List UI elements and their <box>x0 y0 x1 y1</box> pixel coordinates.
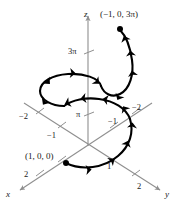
curve-start-dot <box>63 160 69 166</box>
y-tick-label-neg2: −2 <box>132 103 141 112</box>
x-tick-label-neg1: −1 <box>47 131 56 140</box>
z-axis-label: z <box>84 10 88 19</box>
x-axis <box>20 103 152 190</box>
figure-3d-helix: x y z 2 −1 −2 1 2 −1 −2 π 3π (−1, 0, 3π)… <box>0 0 177 206</box>
y-axis <box>24 103 160 190</box>
y-tick-label-1: 1 <box>107 162 111 171</box>
point-label-start: (1, 0, 0) <box>25 152 54 161</box>
x-tick-label-neg2: −2 <box>19 112 28 121</box>
z-tick-label-3pi: 3π <box>68 47 77 56</box>
y-tick-label-2: 2 <box>137 182 141 191</box>
z-tick-label-pi: π <box>76 110 80 119</box>
helix-segment-mid-right <box>64 98 130 119</box>
y-tick-label-neg1: −1 <box>108 117 117 126</box>
helix-segment-lower <box>66 119 132 167</box>
point-label-end: (−1, 0, 3π) <box>100 10 138 19</box>
y-axis-label: y <box>165 190 169 199</box>
z-axis-ticks <box>84 50 94 116</box>
x-axis-label: x <box>6 190 10 199</box>
x-tick-label-2: 2 <box>24 170 28 179</box>
helix-segment-top <box>120 30 132 60</box>
direction-arrow <box>86 165 92 175</box>
direction-arrow <box>119 104 130 114</box>
helix-segment-upper-right <box>101 60 133 96</box>
curve-end-dot <box>117 26 123 32</box>
